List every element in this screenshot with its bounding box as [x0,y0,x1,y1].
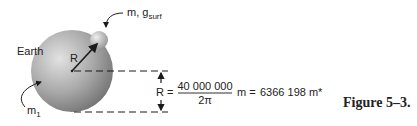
figure-caption: Figure 5–3. [343,95,410,111]
small-mass-symbol: m, g [127,6,148,18]
small-mass-label: m, gsurf [127,6,162,18]
equation-result: 6366 198 m* [260,86,322,98]
earth-mass-label: m1 [27,104,41,116]
equation-numerator: 40 000 000 [176,80,234,92]
small-mass-subscript: surf [148,12,161,21]
radius-label: R [70,52,78,64]
equation-unit: m = [237,86,256,98]
small-mass-sphere [90,31,108,49]
leader-small-mass [106,13,123,27]
earth-mass-symbol: m [27,104,36,116]
earth-mass-subscript: 1 [36,110,40,119]
equation-lhs: R = [156,86,173,98]
earth-label: Earth [17,45,43,57]
equation-denominator: 2π [176,94,234,106]
